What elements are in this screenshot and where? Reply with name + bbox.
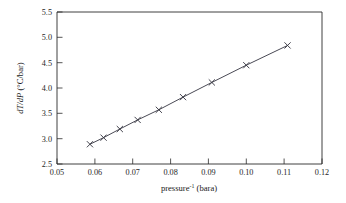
data-point-marker [156, 107, 162, 113]
y-tick-label: 3.0 [42, 135, 52, 144]
y-axis-title-unit: (°C/bar) [15, 62, 25, 90]
data-point-marker [100, 135, 106, 141]
y-tick-marks [57, 12, 63, 164]
data-point-marker [284, 42, 290, 48]
data-point-marker [243, 62, 249, 68]
data-point-marker [87, 141, 93, 147]
data-point-marker [209, 79, 215, 85]
x-tick-label: 0.09 [201, 168, 215, 177]
x-axis-title-base: pressure [161, 183, 190, 193]
y-axis-title-symbol: dT/dP [15, 92, 25, 114]
x-axis-title-unit: (bara) [197, 183, 218, 193]
x-tick-label: 0.05 [50, 168, 64, 177]
line-chart: 2.5 3.0 3.5 4.0 4.5 5.0 5.5 0.05 0.06 0.… [0, 0, 346, 203]
y-tick-label: 5.5 [42, 8, 52, 17]
x-tick-label: 0.08 [163, 168, 177, 177]
data-point-marker [180, 94, 186, 100]
x-tick-marks [57, 159, 322, 165]
x-tick-labels: 0.05 0.06 0.07 0.08 0.09 0.10 0.11 0.12 [50, 168, 329, 177]
data-point-marker [135, 117, 141, 123]
x-tick-label: 0.11 [277, 168, 291, 177]
x-tick-label: 0.10 [239, 168, 253, 177]
y-tick-label: 4.0 [42, 84, 52, 93]
x-tick-label: 0.12 [315, 168, 329, 177]
y-tick-labels: 2.5 3.0 3.5 4.0 4.5 5.0 5.5 [42, 8, 52, 169]
y-axis-title: dT/dP (°C/bar) [15, 62, 25, 114]
data-point-marker [117, 126, 123, 132]
chart-figure: 2.5 3.0 3.5 4.0 4.5 5.0 5.5 0.05 0.06 0.… [0, 0, 346, 203]
x-tick-label: 0.06 [88, 168, 102, 177]
y-tick-label: 4.5 [42, 59, 52, 68]
x-axis-title: pressure-1 (bara) [161, 183, 217, 193]
y-tick-label: 3.5 [42, 109, 52, 118]
y-tick-label: 5.0 [42, 33, 52, 42]
data-series-group [87, 42, 291, 147]
x-tick-label: 0.07 [126, 168, 140, 177]
